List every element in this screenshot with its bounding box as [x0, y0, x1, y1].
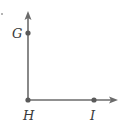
point-i [91, 97, 96, 102]
point-g [25, 30, 30, 35]
label-g: G [12, 26, 22, 41]
label-i: I [89, 108, 96, 123]
point-h [25, 97, 30, 102]
stray-mark [1, 13, 3, 15]
angle-diagram: G H I [0, 0, 128, 128]
label-h: H [22, 108, 35, 123]
